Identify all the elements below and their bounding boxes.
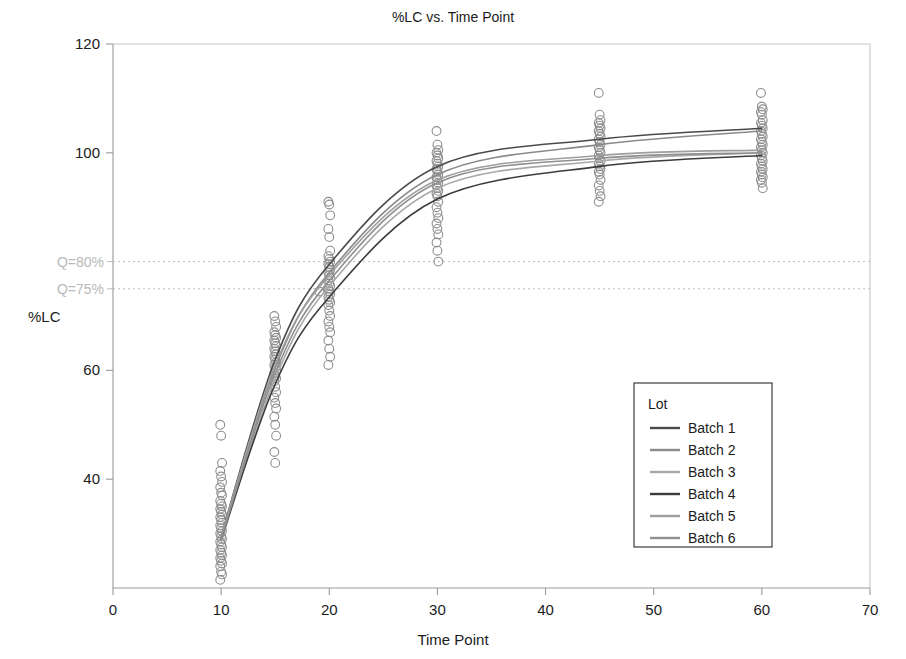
x-tick-label-0: 0 bbox=[109, 601, 117, 618]
y-tick-label-100: 100 bbox=[75, 144, 100, 161]
y-tick-label-120: 120 bbox=[75, 35, 100, 52]
y-tick-label-40: 40 bbox=[83, 470, 100, 487]
x-axis-label: Time Point bbox=[417, 631, 489, 648]
legend-item-label: Batch 4 bbox=[688, 486, 736, 502]
y-tick-label-60: 60 bbox=[83, 361, 100, 378]
legend: LotBatch 1Batch 2Batch 3Batch 4Batch 5Ba… bbox=[634, 383, 772, 547]
reference-line-label-75: Q=75% bbox=[57, 281, 104, 297]
legend-item-label: Batch 2 bbox=[688, 442, 736, 458]
y-axis-label: %LC bbox=[28, 308, 61, 325]
legend-title: Lot bbox=[648, 396, 668, 412]
chart-background bbox=[0, 0, 906, 659]
x-tick-label-20: 20 bbox=[321, 601, 338, 618]
chart-title: %LC vs. Time Point bbox=[392, 9, 514, 25]
legend-item-label: Batch 1 bbox=[688, 420, 736, 436]
x-tick-label-40: 40 bbox=[537, 601, 554, 618]
x-tick-label-30: 30 bbox=[429, 601, 446, 618]
x-tick-label-60: 60 bbox=[754, 601, 771, 618]
legend-item-label: Batch 6 bbox=[688, 530, 736, 546]
reference-line-label-80: Q=80% bbox=[57, 254, 104, 270]
x-tick-label-50: 50 bbox=[645, 601, 662, 618]
lc-vs-time-point-chart: %LC vs. Time Point Q=80%Q=75% 0102030405… bbox=[0, 0, 906, 659]
legend-item-label: Batch 5 bbox=[688, 508, 736, 524]
x-tick-label-70: 70 bbox=[862, 601, 879, 618]
legend-item-label: Batch 3 bbox=[688, 464, 736, 480]
x-tick-label-10: 10 bbox=[213, 601, 230, 618]
chart-container: %LC vs. Time Point Q=80%Q=75% 0102030405… bbox=[0, 0, 906, 659]
